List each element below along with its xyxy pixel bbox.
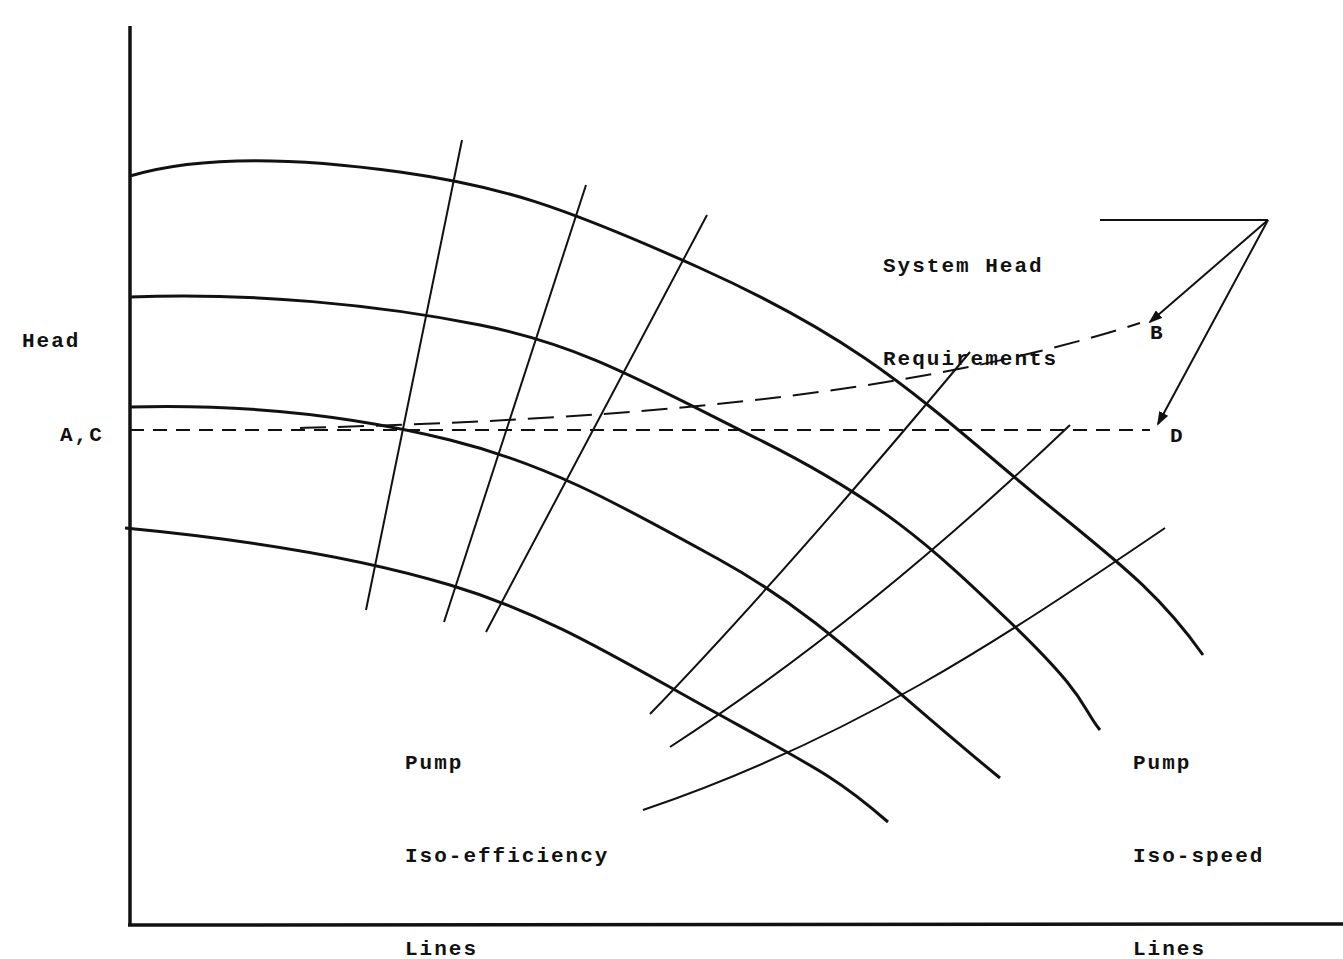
- iso-speed-label-line-3: Lines: [1133, 934, 1264, 959]
- point-d-label: D: [1170, 421, 1185, 452]
- iso-efficiency-line-6: [643, 528, 1165, 810]
- iso-efficiency-line-3: [486, 215, 707, 632]
- arrow-to-d-icon: [1158, 220, 1268, 424]
- arrow-to-b-icon: [1150, 220, 1268, 322]
- iso-efficiency-label: Pump Iso-efficiency Lines: [405, 686, 609, 959]
- iso-efficiency-label-line-2: Iso-efficiency: [405, 841, 609, 872]
- point-b-label: B: [1150, 318, 1165, 349]
- iso-efficiency-label-line-3: Lines: [405, 934, 609, 959]
- system-head-label-line-2: Requirements: [883, 344, 1058, 375]
- iso-efficiency-line-1: [366, 140, 462, 610]
- iso-speed-label-line-1: Pump: [1133, 748, 1264, 779]
- reference-level-label-ac: A,C: [60, 420, 104, 451]
- system-head-label-line-1: System Head: [883, 251, 1058, 282]
- iso-speed-label: Pump Iso-speed Lines: [1133, 686, 1264, 959]
- iso-efficiency-line-2: [444, 185, 586, 622]
- system-head-requirements-label: System Head Requirements: [883, 189, 1058, 406]
- y-axis-label-head: Head: [22, 326, 80, 357]
- iso-efficiency-label-line-1: Pump: [405, 748, 609, 779]
- iso-speed-label-line-2: Iso-speed: [1133, 841, 1264, 872]
